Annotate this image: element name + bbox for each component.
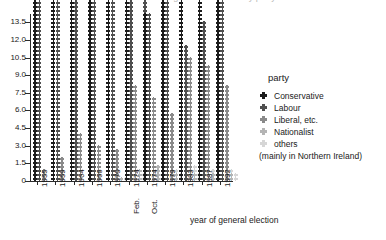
legend-item-conservative[interactable]: Conservative — [258, 90, 384, 102]
data-point-marker — [33, 101, 37, 105]
dot-row — [179, 53, 188, 57]
legend-item-others[interactable]: others — [258, 138, 384, 150]
data-point-marker — [170, 157, 174, 161]
data-point-marker — [179, 137, 183, 141]
legend-item-labour[interactable]: Labour — [258, 102, 384, 114]
dot-column — [51, 14, 71, 181]
dot-row — [106, 13, 115, 17]
legend-item-nationalist[interactable]: Nationalist — [258, 126, 384, 138]
dot-row — [161, 157, 174, 161]
dot-row — [179, 117, 192, 121]
data-point-marker — [198, 137, 202, 141]
data-point-marker — [165, 9, 169, 13]
data-point-marker — [51, 93, 55, 97]
dot-row — [51, 105, 60, 109]
dot-row — [216, 153, 229, 157]
data-point-marker — [143, 73, 147, 77]
data-point-marker — [202, 133, 206, 137]
dot-row — [198, 65, 211, 69]
dot-row — [143, 65, 152, 69]
data-point-marker — [161, 141, 165, 145]
dot-row — [125, 1, 134, 5]
data-point-marker — [51, 53, 55, 57]
data-point-marker — [179, 113, 183, 117]
data-point-marker — [143, 49, 147, 53]
data-point-marker — [129, 17, 133, 21]
data-point-marker — [220, 125, 224, 129]
dot-row — [179, 81, 192, 85]
dot-row — [143, 21, 152, 25]
data-point-marker — [216, 153, 220, 157]
data-point-marker — [184, 129, 188, 133]
data-point-marker — [78, 161, 82, 165]
data-point-marker — [165, 101, 169, 105]
data-point-marker — [88, 49, 92, 53]
data-point-marker — [147, 25, 151, 29]
y-tick-label: 9.0 — [2, 71, 26, 79]
dot-row — [70, 117, 79, 121]
dot-row — [179, 133, 192, 137]
data-point-marker — [33, 21, 37, 25]
data-point-marker — [143, 157, 147, 161]
data-point-marker — [129, 33, 133, 37]
data-point-marker — [225, 149, 229, 153]
data-point-marker — [198, 17, 202, 21]
data-point-marker — [161, 61, 165, 65]
data-point-marker — [88, 173, 92, 177]
dot-row — [88, 97, 97, 101]
dot-row — [70, 109, 79, 113]
legend-label: Nationalist — [274, 126, 314, 138]
data-point-marker — [143, 33, 147, 37]
dot-row — [179, 77, 192, 81]
dot-row — [70, 17, 79, 21]
data-point-marker — [88, 157, 92, 161]
data-point-marker — [88, 141, 92, 145]
data-point-marker — [70, 105, 74, 109]
data-point-marker — [33, 133, 37, 137]
data-point-marker — [165, 125, 169, 129]
data-point-marker — [115, 161, 119, 165]
data-point-marker — [152, 97, 156, 101]
data-point-marker — [92, 145, 96, 149]
x-tick-mark — [110, 181, 111, 185]
data-point-marker — [56, 137, 60, 141]
data-point-marker — [125, 101, 129, 105]
data-point-marker — [51, 49, 55, 53]
data-point-marker — [92, 69, 96, 73]
dot-row — [51, 21, 60, 25]
data-point-marker — [33, 41, 37, 45]
data-point-marker — [184, 45, 188, 49]
data-point-marker — [125, 37, 129, 41]
data-point-marker — [70, 29, 74, 33]
dot-row — [216, 109, 229, 113]
data-point-marker — [170, 153, 174, 157]
data-point-marker — [74, 137, 78, 141]
data-point-marker — [216, 5, 220, 9]
dot-row — [70, 93, 79, 97]
data-point-marker — [129, 113, 133, 117]
data-point-marker — [220, 25, 224, 29]
data-point-marker — [152, 137, 156, 141]
data-point-marker — [184, 81, 188, 85]
data-point-marker — [220, 93, 224, 97]
dot-row — [143, 73, 152, 77]
data-point-marker — [198, 33, 202, 37]
data-point-marker — [88, 97, 92, 101]
data-point-marker — [165, 121, 169, 125]
dot-row — [51, 117, 60, 121]
dot-row — [106, 57, 115, 61]
data-point-marker — [133, 145, 137, 149]
dot-row — [198, 133, 211, 137]
data-point-marker — [179, 25, 183, 29]
data-point-marker — [92, 101, 96, 105]
data-point-marker — [70, 101, 74, 105]
data-point-marker — [179, 9, 183, 13]
data-point-marker — [165, 73, 169, 77]
data-point-marker — [111, 21, 115, 25]
dot-row — [161, 37, 170, 41]
dot-row — [161, 41, 170, 45]
data-point-marker — [216, 49, 220, 53]
data-point-marker — [202, 61, 206, 65]
dot-row — [161, 125, 174, 129]
legend-item-liberal-etc[interactable]: Liberal, etc. — [258, 114, 384, 126]
